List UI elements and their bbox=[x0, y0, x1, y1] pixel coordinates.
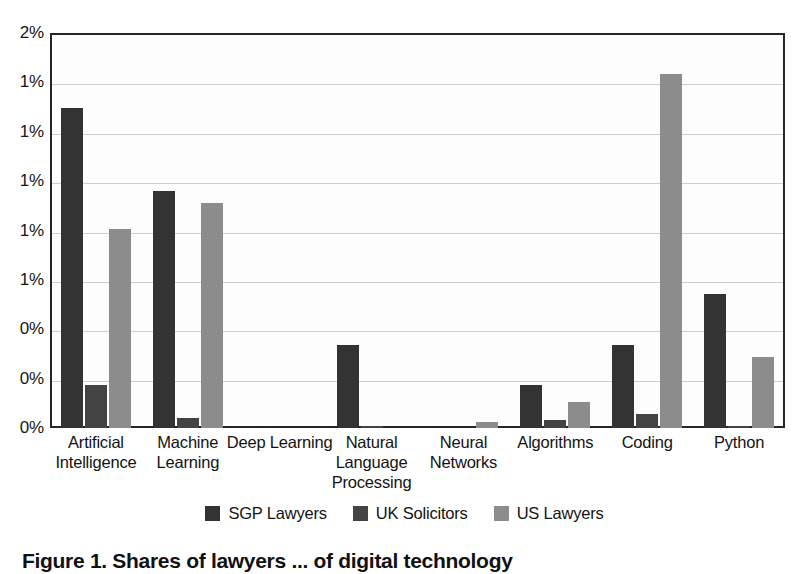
bar bbox=[728, 426, 750, 428]
chart-legend: SGP LawyersUK SolicitorsUS Lawyers bbox=[0, 505, 809, 522]
y-tick-label: 1% bbox=[0, 222, 44, 239]
legend-swatch-icon bbox=[353, 506, 368, 521]
figure-caption: Figure 1. Shares of lawyers ... of digit… bbox=[22, 548, 792, 574]
bar-group bbox=[601, 33, 693, 428]
bar-group bbox=[693, 33, 785, 428]
y-tick-label: 1% bbox=[0, 271, 44, 288]
bar bbox=[520, 385, 542, 428]
y-tick-label: 1% bbox=[0, 123, 44, 140]
legend-label: UK Solicitors bbox=[376, 505, 468, 522]
bar bbox=[476, 422, 498, 428]
x-tick-label-line: Python bbox=[673, 432, 805, 452]
bar-group bbox=[418, 33, 510, 428]
legend-item[interactable]: SGP Lawyers bbox=[205, 505, 326, 522]
bar bbox=[177, 418, 199, 428]
bar bbox=[201, 203, 223, 428]
bar bbox=[636, 414, 658, 428]
bar bbox=[752, 357, 774, 428]
y-axis: 2%1%1%1%1%1%0%0%0% bbox=[0, 33, 44, 428]
legend-swatch-icon bbox=[205, 506, 220, 521]
bar-group bbox=[50, 33, 142, 428]
legend-swatch-icon bbox=[494, 506, 509, 521]
bar bbox=[109, 229, 131, 428]
y-tick-label: 1% bbox=[0, 73, 44, 90]
bar bbox=[153, 191, 175, 428]
x-tick-label-line: Learning bbox=[122, 452, 254, 472]
bar-group bbox=[142, 33, 234, 428]
bar-group bbox=[234, 33, 326, 428]
bar-group bbox=[509, 33, 601, 428]
bar bbox=[612, 345, 634, 428]
y-tick-label: 0% bbox=[0, 320, 44, 337]
legend-label: US Lawyers bbox=[517, 505, 604, 522]
bar bbox=[704, 294, 726, 428]
bar bbox=[361, 426, 383, 428]
bar bbox=[61, 108, 83, 428]
legend-item[interactable]: UK Solicitors bbox=[353, 505, 468, 522]
x-tick-label-line: Networks bbox=[397, 452, 529, 472]
bar bbox=[85, 385, 107, 428]
legend-item[interactable]: US Lawyers bbox=[494, 505, 604, 522]
bars-layer bbox=[50, 33, 785, 428]
bar bbox=[337, 345, 359, 428]
y-tick-label: 2% bbox=[0, 24, 44, 41]
x-tick-label: Python bbox=[673, 432, 805, 452]
bar bbox=[568, 402, 590, 428]
legend-label: SGP Lawyers bbox=[228, 505, 326, 522]
y-tick-label: 0% bbox=[0, 370, 44, 387]
bar bbox=[544, 420, 566, 428]
x-axis: ArtificialIntelligenceMachineLearningDee… bbox=[50, 432, 785, 504]
bar-group bbox=[326, 33, 418, 428]
y-tick-label: 1% bbox=[0, 172, 44, 189]
bar bbox=[660, 74, 682, 428]
x-tick-label-line: Processing bbox=[305, 472, 437, 492]
